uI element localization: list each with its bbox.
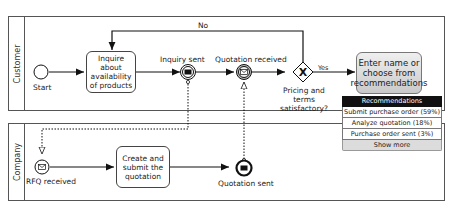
rfq-received-label: RFQ received xyxy=(26,177,76,186)
show-more-button[interactable]: Show more xyxy=(342,140,442,151)
gateway-yes-label: Yes xyxy=(318,64,329,73)
recommendation-item[interactable]: Analyze quotation (18%) xyxy=(342,118,442,129)
quotation-sent-label: Quotation sent xyxy=(218,179,274,188)
start-event-label: Start xyxy=(33,83,51,92)
task-create-quotation[interactable]: Create and submit the quotation xyxy=(116,146,170,188)
recommendations-dropdown: Recommendations Submit purchase order (5… xyxy=(342,96,442,151)
task-inquire[interactable]: Inquire about availability of products xyxy=(86,51,136,93)
recommendations-header: Recommendations xyxy=(342,96,442,107)
start-event-icon xyxy=(34,65,48,79)
recommendation-item[interactable]: Purchase order sent (3%) xyxy=(342,129,442,140)
recommendation-item[interactable]: Submit purchase order (59%) xyxy=(342,107,442,118)
ghost-task-input[interactable]: Enter name or choose from recommendation… xyxy=(356,52,422,94)
gateway-label: Pricing and terms satisfactory? xyxy=(276,86,332,113)
inquiry-sent-label: Inquiry sent xyxy=(160,55,205,64)
quotation-received-label: Quotation received xyxy=(215,55,287,64)
gateway-no-label: No xyxy=(198,21,208,30)
svg-text:X: X xyxy=(299,66,308,79)
